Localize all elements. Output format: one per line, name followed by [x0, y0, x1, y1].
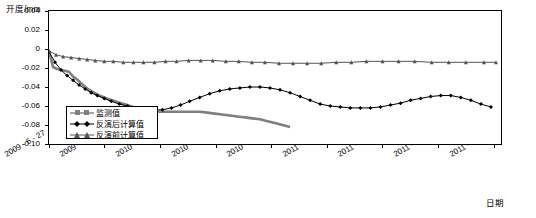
- legend-item: 反演后计算值: [67, 118, 157, 129]
- y-tick-label: -0.04: [6, 82, 40, 91]
- legend-label-series-1: 反演后计算值: [96, 118, 144, 129]
- y-tick-label: -0.08: [6, 120, 40, 129]
- series-1: [49, 50, 493, 112]
- y-tick-label: 0.02: [6, 25, 40, 34]
- y-tick-label: 0: [6, 44, 40, 53]
- legend-item: 反演前计算值: [67, 129, 157, 140]
- legend-symbol-series-2: [69, 130, 95, 140]
- y-tick-label: -0.06: [6, 101, 40, 110]
- chart-container: 开度/mm 日期 0.040.020-0.02-0.04-0.06-0.08-0…: [0, 0, 536, 218]
- legend-item: 监测值: [67, 107, 157, 118]
- legend-label-series-0: 监测值: [96, 107, 120, 118]
- x-axis-label: 日期: [486, 196, 504, 208]
- chart-legend: 监测值 反演后计算值 反演前计算值: [66, 106, 158, 139]
- legend-label-series-2: 反演前计算值: [96, 129, 144, 140]
- legend-symbol-series-0: [69, 108, 95, 118]
- series-2: [49, 49, 498, 65]
- y-tick-label: -0.02: [6, 63, 40, 72]
- y-tick-label: 0.04: [6, 6, 40, 15]
- legend-symbol-series-1: [69, 119, 95, 129]
